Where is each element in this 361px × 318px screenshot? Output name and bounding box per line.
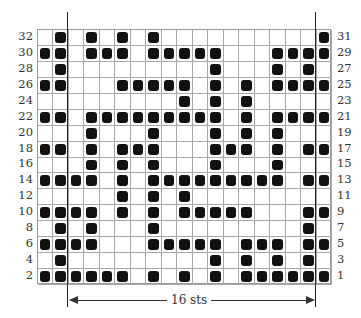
chart-cell xyxy=(84,205,99,221)
chart-cell xyxy=(69,189,84,205)
filled-stitch xyxy=(117,191,127,202)
filled-stitch xyxy=(272,64,282,75)
chart-cell xyxy=(115,173,130,189)
chart-cell xyxy=(162,94,177,110)
filled-stitch xyxy=(55,32,65,43)
filled-stitch xyxy=(102,112,112,123)
filled-stitch xyxy=(319,144,329,155)
filled-stitch xyxy=(210,128,220,139)
chart-cell xyxy=(162,110,177,126)
filled-stitch xyxy=(40,175,50,186)
chart-cell xyxy=(100,126,115,142)
filled-stitch xyxy=(148,239,158,250)
chart-cell xyxy=(177,126,192,142)
chart-cell xyxy=(317,173,332,189)
repeat-start-line xyxy=(67,12,68,307)
chart-cell xyxy=(317,30,332,46)
chart-cell xyxy=(270,173,285,189)
row-label-right: 11 xyxy=(337,190,352,202)
chart-cell xyxy=(239,46,254,62)
filled-stitch xyxy=(86,160,96,171)
filled-stitch xyxy=(195,175,205,186)
filled-stitch xyxy=(241,239,251,250)
filled-stitch xyxy=(272,175,282,186)
filled-stitch xyxy=(179,191,189,202)
filled-stitch xyxy=(303,80,313,91)
chart-cell xyxy=(317,253,332,269)
chart-cell xyxy=(146,46,161,62)
chart-cell xyxy=(131,94,146,110)
chart-cell xyxy=(177,158,192,174)
chart-cell xyxy=(193,126,208,142)
chart-cell xyxy=(177,46,192,62)
chart-cell xyxy=(38,189,53,205)
filled-stitch xyxy=(117,175,127,186)
chart-cell xyxy=(193,237,208,253)
chart-cell xyxy=(100,142,115,158)
filled-stitch xyxy=(195,112,205,123)
filled-stitch xyxy=(86,207,96,218)
filled-stitch xyxy=(117,80,127,91)
filled-stitch xyxy=(303,64,313,75)
filled-stitch xyxy=(241,271,251,282)
chart-cell xyxy=(84,78,99,94)
chart-cell xyxy=(146,142,161,158)
filled-stitch xyxy=(319,239,329,250)
row-label-left: 32 xyxy=(18,31,33,43)
chart-cell xyxy=(255,205,270,221)
chart-cell xyxy=(208,253,223,269)
filled-stitch xyxy=(148,80,158,91)
filled-stitch xyxy=(241,144,251,155)
chart-cell xyxy=(224,126,239,142)
filled-stitch xyxy=(210,175,220,186)
chart-cell xyxy=(208,142,223,158)
filled-stitch xyxy=(319,112,329,123)
filled-stitch xyxy=(179,48,189,59)
filled-stitch xyxy=(40,271,50,282)
chart-cell xyxy=(239,78,254,94)
chart-cell xyxy=(317,221,332,237)
chart-cell xyxy=(286,142,301,158)
chart-cell xyxy=(38,46,53,62)
chart-cell xyxy=(255,269,270,285)
chart-cell xyxy=(255,78,270,94)
chart-cell xyxy=(286,94,301,110)
chart-cell xyxy=(177,94,192,110)
chart-cell xyxy=(146,126,161,142)
chart-cell xyxy=(193,205,208,221)
chart-cell xyxy=(100,110,115,126)
chart-cell xyxy=(177,205,192,221)
chart-cell xyxy=(270,126,285,142)
row-label-left: 30 xyxy=(18,47,33,59)
chart-cell xyxy=(286,126,301,142)
filled-stitch xyxy=(55,239,65,250)
chart-cell xyxy=(100,253,115,269)
filled-stitch xyxy=(148,48,158,59)
chart-cell xyxy=(131,30,146,46)
filled-stitch xyxy=(241,112,251,123)
filled-stitch xyxy=(117,160,127,171)
chart-cell xyxy=(84,269,99,285)
chart-cell xyxy=(100,269,115,285)
chart-cell xyxy=(69,237,84,253)
chart-cell xyxy=(38,30,53,46)
chart-cell xyxy=(208,78,223,94)
filled-stitch xyxy=(319,48,329,59)
filled-stitch xyxy=(55,271,65,282)
chart-cell xyxy=(69,62,84,78)
filled-stitch xyxy=(179,112,189,123)
filled-stitch xyxy=(210,96,220,107)
filled-stitch xyxy=(40,144,50,155)
chart-cell xyxy=(131,173,146,189)
chart-cell xyxy=(208,62,223,78)
filled-stitch xyxy=(210,64,220,75)
chart-cell xyxy=(208,221,223,237)
chart-cell xyxy=(84,221,99,237)
chart-cell xyxy=(208,237,223,253)
chart-cell xyxy=(146,205,161,221)
filled-stitch xyxy=(288,80,298,91)
filled-stitch xyxy=(164,239,174,250)
chart-cell xyxy=(131,78,146,94)
chart-cell xyxy=(317,94,332,110)
chart-cell xyxy=(270,62,285,78)
